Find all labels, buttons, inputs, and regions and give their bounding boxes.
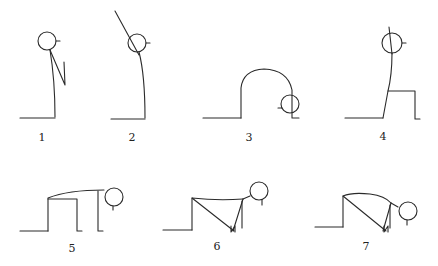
head-icon: [128, 34, 146, 52]
head-icon: [281, 95, 299, 113]
figure-4: 4: [345, 27, 420, 143]
figure-label: 1: [39, 131, 46, 144]
figure-1: 1: [20, 32, 65, 144]
figure-label: 5: [69, 242, 76, 255]
head-icon: [399, 202, 417, 220]
figure-label: 4: [380, 130, 387, 143]
figure-7: 7: [315, 193, 417, 253]
figure-label: 7: [363, 240, 370, 253]
back-line: [343, 193, 391, 227]
head-icon: [250, 182, 268, 200]
arm-line: [389, 27, 392, 54]
thigh-line: [343, 196, 386, 231]
head-icon: [105, 188, 123, 206]
back-line: [48, 190, 104, 231]
neck-line: [243, 196, 250, 199]
arm-line: [115, 11, 139, 55]
figure-5: 5: [20, 188, 123, 255]
torso-back-leg-line: [383, 53, 392, 118]
thigh-line: [192, 198, 234, 231]
figure-label: 3: [246, 131, 253, 144]
figure-label: 6: [214, 240, 221, 253]
neck-line: [391, 203, 398, 207]
figure-6: 6: [163, 182, 268, 253]
thigh-leg-line: [48, 199, 82, 231]
front-leg-line: [388, 91, 420, 119]
figure-3: 3: [203, 69, 299, 144]
pose-sequence-diagram: 1 2 3 4 5: [0, 0, 438, 266]
arm-line: [98, 191, 103, 231]
figure-2: 2: [111, 11, 150, 144]
torso-line: [139, 52, 145, 118]
head-icon: [38, 32, 56, 50]
arched-body-line: [241, 69, 299, 118]
figure-label: 2: [129, 131, 136, 144]
